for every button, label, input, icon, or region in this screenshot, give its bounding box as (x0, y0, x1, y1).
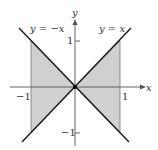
y-axis-label: y (71, 7, 78, 18)
tick-label-y-neg: −1 (61, 127, 76, 138)
region-diagram: y = −x y = x y x 1 −1 −1 1 (0, 0, 158, 150)
y-axis-arrow-icon (73, 19, 78, 25)
tick-label-y-pos: 1 (67, 35, 73, 46)
tick-label-x-neg: −1 (16, 91, 31, 102)
origin-point (73, 85, 77, 89)
x-axis-label: x (146, 82, 152, 93)
curve-label-pos: y = x (98, 23, 125, 34)
tick-label-x-pos: 1 (122, 91, 128, 102)
curve-label-neg: y = −x (29, 23, 65, 34)
